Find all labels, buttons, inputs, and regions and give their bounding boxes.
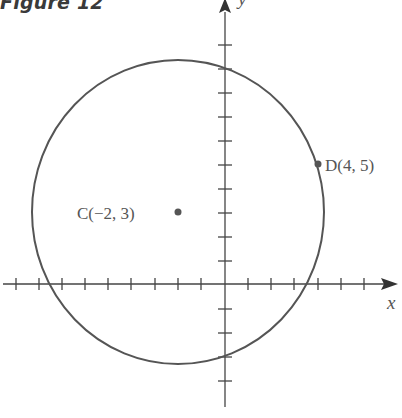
point-c-icon — [175, 209, 182, 216]
y-axis — [218, 12, 232, 407]
point-c-label: C(−2, 3) — [77, 204, 135, 223]
coordinate-plane: C(−2, 3) D(4, 5) x y — [0, 0, 402, 418]
point-d-label: D(4, 5) — [325, 156, 374, 175]
y-axis-arrow-icon — [219, 0, 231, 13]
x-axis-label: x — [386, 292, 396, 313]
y-axis-label: y — [236, 0, 247, 9]
x-axis — [3, 278, 385, 290]
point-d-icon — [315, 161, 322, 168]
